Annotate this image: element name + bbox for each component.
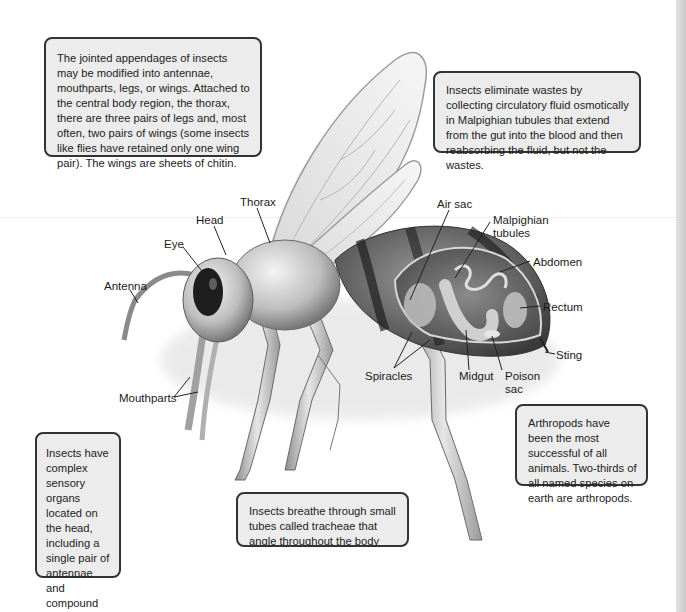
info-box-excretion: Insects eliminate wastes by collecting c… (433, 71, 641, 153)
info-box-sensory: Insects have complex sensory organs loca… (35, 432, 121, 578)
label-abdomen: Abdomen (533, 256, 582, 269)
label-mouthparts: Mouthparts (119, 392, 177, 405)
label-antenna: Antenna (104, 280, 147, 293)
info-box-respiration: Insects breathe through small tubes call… (236, 492, 409, 547)
rectum (503, 292, 527, 328)
info-box-appendages: The jointed appendages of insects may be… (44, 37, 262, 157)
label-tubules: tubules (493, 227, 530, 240)
label-head: Head (196, 214, 224, 227)
compound-eye (193, 268, 223, 316)
label-rectum: Rectum (543, 301, 583, 314)
label-thorax: Thorax (240, 196, 276, 209)
info-box-success: Arthropods have been the most successful… (515, 404, 648, 486)
label-malpighian: Malpighian (493, 214, 549, 227)
label-midgut: Midgut (459, 370, 494, 383)
label-eye: Eye (164, 238, 184, 251)
label-poison: Poison (505, 370, 540, 383)
air-sac (404, 283, 436, 327)
label-sting: Sting (556, 349, 582, 362)
label-sac: sac (505, 383, 523, 396)
label-air-sac: Air sac (437, 198, 472, 211)
scrollbar-track[interactable] (676, 0, 686, 612)
label-spiracles: Spiracles (365, 370, 412, 383)
